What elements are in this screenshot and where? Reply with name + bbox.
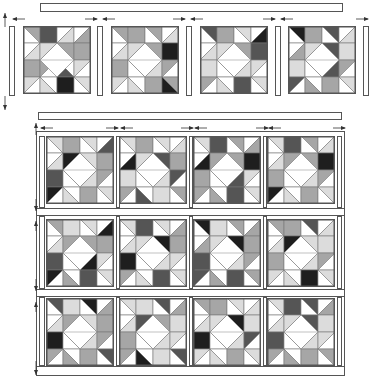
quilt-block <box>119 298 187 366</box>
quilt-block-pattern <box>23 26 91 94</box>
quilt-block <box>46 298 114 366</box>
quilt-block <box>267 219 335 287</box>
quilt-block <box>200 26 268 94</box>
arrow-left-icon <box>120 125 134 131</box>
quilt-block-pattern <box>46 219 114 287</box>
arrow-down-icon <box>33 276 39 288</box>
row-sashing-strip <box>36 208 345 216</box>
quilt-block-pattern <box>119 298 187 366</box>
arrow-right-icon <box>84 16 98 22</box>
arrow-left-icon <box>268 125 282 131</box>
vertical-sashing-strip <box>97 26 103 96</box>
top-sashing-strip <box>40 3 343 12</box>
quilt-block <box>193 219 261 287</box>
vertical-sashing-strip <box>337 216 342 289</box>
quilt-block-pattern <box>200 26 268 94</box>
quilt-block <box>267 298 335 366</box>
vertical-sashing-strip <box>186 26 192 96</box>
quilt-block <box>119 136 187 204</box>
row-sashing-strip <box>36 289 345 297</box>
arrow-right-icon <box>105 125 119 131</box>
quilt-block-pattern <box>119 136 187 204</box>
quilt-block-pattern <box>46 298 114 366</box>
quilt-block <box>23 26 91 94</box>
arrow-left-icon <box>40 125 54 131</box>
vertical-sashing-strip <box>275 26 281 96</box>
arrow-up-icon <box>33 120 39 132</box>
vertical-sashing-strip <box>39 216 45 289</box>
horizontal-sashing-strip <box>38 112 342 120</box>
quilt-block <box>111 26 179 94</box>
arrow-right-icon <box>255 125 269 131</box>
quilt-block-pattern <box>193 219 261 287</box>
quilt-block <box>193 136 261 204</box>
arrow-left-icon <box>280 16 294 22</box>
vertical-sashing-strip <box>363 26 369 96</box>
quilt-block-pattern <box>111 26 179 94</box>
vertical-sashing-strip <box>39 136 45 208</box>
arrow-up-icon <box>2 12 8 26</box>
arrow-down-icon <box>33 196 39 208</box>
arrow-down-icon <box>2 95 8 109</box>
arrow-right-icon <box>332 125 346 131</box>
arrow-right-icon <box>180 125 194 131</box>
quilt-block-pattern <box>46 136 114 204</box>
quilt-block <box>193 298 261 366</box>
arrow-down-icon <box>33 360 39 374</box>
arrow-up-icon <box>33 297 39 307</box>
vertical-sashing-strip <box>39 297 45 366</box>
quilt-block <box>46 136 114 204</box>
quilt-block-pattern <box>193 298 261 366</box>
quilt-block <box>288 26 356 94</box>
arrow-left-icon <box>102 16 116 22</box>
vertical-sashing-strip <box>337 136 342 208</box>
quilt-block-pattern <box>119 219 187 287</box>
arrow-up-icon <box>33 216 39 226</box>
quilt-block <box>119 219 187 287</box>
arrow-right-icon <box>262 16 276 22</box>
arrow-left-icon <box>12 16 26 22</box>
arrow-left-icon <box>190 16 204 22</box>
quilt-block-pattern <box>267 219 335 287</box>
quilt-block-pattern <box>267 136 335 204</box>
quilt-block-pattern <box>193 136 261 204</box>
arrow-right-icon <box>355 16 369 22</box>
vertical-sashing-strip <box>337 297 342 366</box>
row-sashing-strip <box>36 366 345 376</box>
quilt-block-pattern <box>288 26 356 94</box>
quilt-block <box>46 219 114 287</box>
quilt-block <box>267 136 335 204</box>
arrow-right-icon <box>172 16 186 22</box>
quilt-block-pattern <box>267 298 335 366</box>
vertical-sashing-strip <box>9 26 15 96</box>
arrow-left-icon <box>194 125 208 131</box>
